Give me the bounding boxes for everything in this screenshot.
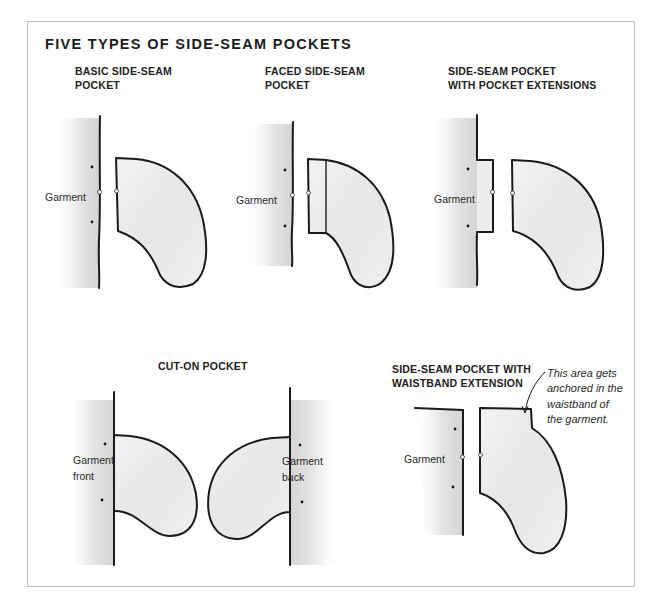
annotation-line: This area gets: [547, 366, 623, 381]
label-garment-back: Garment back: [282, 453, 323, 485]
annotation-line: the garment.: [547, 412, 623, 427]
garment-front-pocket: [114, 435, 197, 536]
notch: [291, 193, 295, 197]
marker-dot: [101, 499, 104, 502]
pocket-piece: [512, 160, 603, 290]
pocket-piece: [480, 408, 566, 553]
marker-dot: [299, 444, 302, 447]
marker-dot: [467, 225, 470, 228]
waistband-annotation: This area gets anchored in the waistband…: [547, 366, 623, 427]
notch: [511, 191, 515, 195]
label-garment-waistband: Garment: [404, 451, 445, 467]
marker-dot: [91, 166, 94, 169]
notch: [115, 189, 119, 193]
notch: [479, 453, 483, 457]
notch: [307, 191, 311, 195]
marker-dot: [301, 501, 304, 504]
marker-dot: [452, 486, 455, 489]
notch: [461, 455, 465, 459]
pocket-piece: [116, 158, 206, 287]
label-garment-basic: Garment: [45, 189, 86, 205]
label-line: front: [73, 468, 114, 484]
label-line: Garment: [73, 452, 114, 468]
pocket-piece: [308, 159, 393, 287]
label-garment-extensions: Garment: [434, 191, 475, 207]
garment-back-pocket: [208, 437, 290, 539]
garment-seam-line: [99, 116, 100, 288]
extension-shading: [477, 160, 493, 232]
marker-dot: [454, 428, 457, 431]
label-garment-faced: Garment: [236, 192, 277, 208]
notch: [98, 190, 102, 194]
marker-dot: [284, 225, 287, 228]
label-line: Garment: [282, 453, 323, 469]
annotation-line: anchored in the: [547, 381, 623, 396]
pocket-illustrations: [0, 0, 658, 612]
label-line: back: [282, 469, 323, 485]
notch: [491, 190, 495, 194]
garment-shading: [415, 408, 463, 535]
marker-dot: [104, 443, 107, 446]
marker-dot: [467, 168, 470, 171]
label-garment-front: Garment front: [73, 452, 114, 484]
marker-dot: [91, 221, 94, 224]
annotation-line: waistband of: [547, 397, 623, 412]
marker-dot: [284, 169, 287, 172]
